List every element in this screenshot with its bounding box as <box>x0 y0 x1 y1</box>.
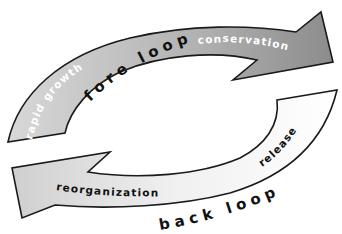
adaptive-cycle-diagram: fore loop rapid growth conservation rele… <box>0 0 342 234</box>
